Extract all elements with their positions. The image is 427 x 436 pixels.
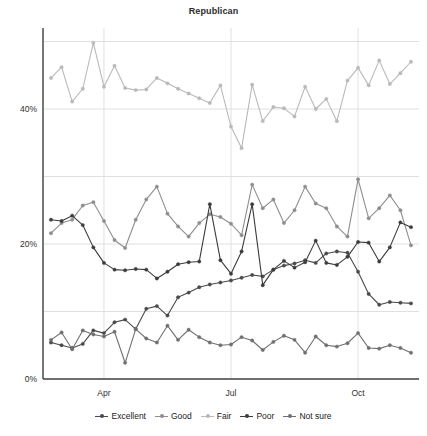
- data-point: [70, 218, 73, 221]
- grid-lines: [43, 28, 419, 379]
- legend-item-good[interactable]: Good: [155, 412, 192, 421]
- data-point: [293, 266, 296, 269]
- data-point: [240, 234, 243, 237]
- data-point: [272, 268, 275, 271]
- data-point: [92, 333, 95, 336]
- data-point: [60, 65, 63, 68]
- data-point: [367, 346, 370, 349]
- data-point: [272, 340, 275, 343]
- data-point: [176, 87, 179, 90]
- data-point: [367, 292, 370, 295]
- legend-marker-icon: [201, 413, 214, 420]
- data-point: [282, 107, 285, 110]
- data-point: [303, 185, 306, 188]
- data-point: [134, 218, 137, 221]
- data-point: [240, 250, 243, 253]
- data-point: [81, 223, 84, 226]
- data-point: [187, 235, 190, 238]
- data-point: [208, 341, 211, 344]
- data-point: [282, 221, 285, 224]
- x-tick-labels: AprJulOct: [97, 388, 365, 398]
- data-point: [367, 217, 370, 220]
- legend-item-fair[interactable]: Fair: [201, 412, 232, 421]
- data-point: [49, 76, 52, 79]
- data-point: [155, 277, 158, 280]
- data-point: [293, 115, 296, 118]
- legend-marker-icon: [240, 413, 253, 420]
- data-point: [60, 331, 63, 334]
- data-point: [70, 100, 73, 103]
- data-point: [314, 335, 317, 338]
- data-point: [314, 107, 317, 110]
- data-point: [166, 314, 169, 317]
- data-point: [198, 221, 201, 224]
- data-point: [187, 328, 190, 331]
- legend-label: Not sure: [299, 412, 331, 421]
- y-tick-labels: 0%20%40%: [20, 104, 37, 384]
- data-point: [208, 101, 211, 104]
- data-point: [293, 262, 296, 265]
- data-point: [335, 263, 338, 266]
- data-point: [81, 342, 84, 345]
- legend-item-poor[interactable]: Poor: [240, 412, 274, 421]
- data-point: [409, 244, 412, 247]
- data-point: [219, 84, 222, 87]
- data-point: [356, 66, 359, 69]
- data-point: [187, 92, 190, 95]
- data-point: [145, 268, 148, 271]
- data-point: [176, 263, 179, 266]
- data-point: [176, 296, 179, 299]
- data-point: [250, 83, 253, 86]
- data-point: [102, 331, 105, 334]
- data-point: [81, 87, 84, 90]
- data-point: [378, 59, 381, 62]
- data-point: [113, 64, 116, 67]
- chart-legend: ExcellentGoodFairPoorNot sure: [0, 412, 427, 421]
- legend-label: Fair: [217, 412, 232, 421]
- data-point: [134, 267, 137, 270]
- data-point: [250, 202, 253, 205]
- data-point: [229, 343, 232, 346]
- data-point: [49, 232, 52, 235]
- y-tick-label: 20%: [20, 239, 37, 249]
- data-point: [155, 76, 158, 79]
- data-point: [219, 259, 222, 262]
- data-point: [240, 146, 243, 149]
- data-point: [92, 200, 95, 203]
- data-point: [102, 219, 105, 222]
- data-point: [293, 338, 296, 341]
- data-point: [155, 185, 158, 188]
- data-point: [282, 334, 285, 337]
- data-point: [208, 202, 211, 205]
- data-point: [219, 281, 222, 284]
- data-point: [219, 215, 222, 218]
- data-point: [219, 344, 222, 347]
- data-point: [409, 60, 412, 63]
- data-point: [325, 97, 328, 100]
- legend-marker-icon: [155, 413, 168, 420]
- data-point: [240, 335, 243, 338]
- data-point: [113, 238, 116, 241]
- data-point: [314, 239, 317, 242]
- legend-item-not-sure[interactable]: Not sure: [283, 412, 331, 421]
- data-point: [166, 82, 169, 85]
- data-point: [198, 335, 201, 338]
- data-point: [123, 318, 126, 321]
- data-point: [378, 207, 381, 210]
- data-point: [293, 209, 296, 212]
- data-point: [356, 178, 359, 181]
- legend-item-excellent[interactable]: Excellent: [95, 412, 146, 421]
- data-point: [81, 329, 84, 332]
- data-point: [356, 240, 359, 243]
- data-point: [229, 272, 232, 275]
- chart-container: Republican 0%20%40% AprJulOct ExcellentG…: [0, 0, 427, 436]
- data-point: [399, 209, 402, 212]
- data-point: [155, 304, 158, 307]
- legend-label: Good: [171, 412, 192, 421]
- data-point: [261, 207, 264, 210]
- data-point: [346, 342, 349, 345]
- data-point: [325, 344, 328, 347]
- data-point: [70, 348, 73, 351]
- data-point: [335, 345, 338, 348]
- data-point: [378, 260, 381, 263]
